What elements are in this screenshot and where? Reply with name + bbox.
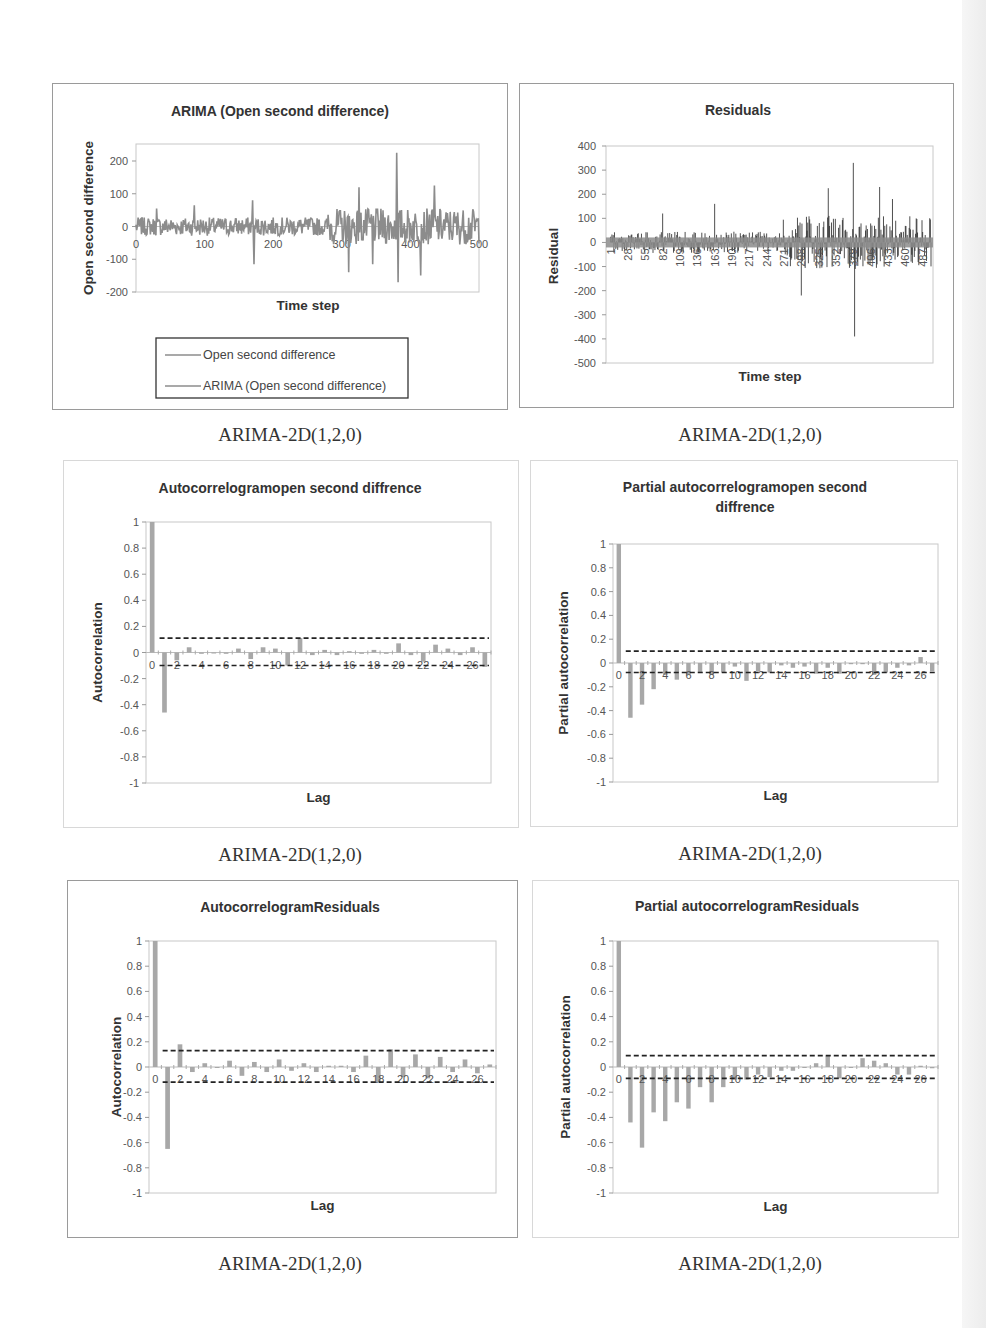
bar — [285, 653, 290, 666]
bar — [721, 1067, 725, 1087]
y-tick-label: 1 — [600, 935, 606, 947]
x-tick-label: 1 — [605, 248, 617, 254]
bar — [322, 650, 327, 653]
y-tick-label: -0.2 — [587, 1086, 606, 1098]
y-tick-label: -0.4 — [123, 1111, 142, 1123]
x-tick-label: 406 — [865, 248, 877, 266]
bar — [767, 1067, 771, 1077]
pacf-chart-residuals: Partial autocorrelogramResidualsPartial … — [533, 881, 960, 1239]
x-tick-label: 8 — [709, 669, 715, 681]
x-axis-label: Lag — [306, 790, 330, 805]
bar — [463, 1059, 468, 1067]
y-tick-label: -0.6 — [123, 1137, 142, 1149]
bar — [918, 1066, 922, 1067]
bar — [907, 663, 911, 665]
legend-entry: Open second difference — [203, 348, 336, 362]
x-tick-label: 26 — [471, 1073, 483, 1085]
chart-title: ARIMA (Open second difference) — [171, 103, 389, 119]
x-tick-label: 8 — [251, 1073, 257, 1085]
bar — [733, 663, 737, 667]
bar — [458, 653, 463, 656]
page-edge — [962, 0, 986, 1328]
bar — [150, 522, 155, 653]
bar — [826, 663, 830, 668]
x-tick-label: 28 — [622, 248, 634, 260]
bar — [227, 1061, 232, 1067]
x-tick-label: 26 — [914, 669, 926, 681]
bar — [450, 1067, 455, 1072]
bar — [384, 653, 389, 654]
bar — [930, 1067, 934, 1068]
x-tick-label: 244 — [761, 248, 773, 266]
y-tick-label: -0.4 — [587, 1111, 606, 1123]
y-tick-label: 0.4 — [591, 609, 606, 621]
x-tick-label: 136 — [691, 248, 703, 266]
x-tick-label: 22 — [868, 669, 880, 681]
bar — [236, 649, 241, 653]
y-tick-label: -1 — [132, 1187, 142, 1199]
x-tick-label: 10 — [269, 659, 281, 671]
x-tick-label: 22 — [422, 1073, 434, 1085]
caption-3: ARIMA-2D(1,2,0) — [140, 844, 440, 866]
bar — [388, 1049, 393, 1067]
x-tick-label: 200 — [264, 238, 282, 250]
x-axis-label: Lag — [763, 1199, 787, 1214]
bar — [791, 1067, 795, 1071]
bar — [289, 1067, 294, 1071]
y-tick-label: 0 — [600, 1061, 606, 1073]
y-tick-label: 1 — [133, 516, 139, 528]
bar — [628, 1067, 632, 1122]
y-tick-label: -0.6 — [587, 728, 606, 740]
x-tick-label: 14 — [775, 669, 787, 681]
x-tick-label: 325 — [813, 248, 825, 266]
y-tick-label: 0 — [122, 221, 128, 233]
y-tick-label: 0.8 — [124, 542, 139, 554]
bar — [860, 663, 864, 664]
y-axis-label: Open second difference — [81, 141, 96, 295]
bar — [409, 653, 414, 656]
bar — [721, 663, 725, 673]
bar — [298, 638, 303, 652]
x-tick-label: 352 — [830, 248, 842, 266]
bar — [698, 1067, 702, 1087]
bar — [364, 1056, 369, 1067]
y-tick-label: -0.8 — [587, 1162, 606, 1174]
x-tick-label: 12 — [298, 1073, 310, 1085]
bar — [884, 663, 888, 673]
bar — [675, 1067, 679, 1102]
bar — [767, 663, 771, 673]
x-tick-label: 24 — [442, 659, 454, 671]
acf-chart-open-second-difference: Autocorrelogramopen second diffrenceAuto… — [64, 461, 520, 829]
y-tick-label: 100 — [578, 212, 596, 224]
bar — [779, 663, 783, 665]
x-tick-label: 14 — [319, 659, 331, 671]
x-tick-label: 109 — [674, 248, 686, 266]
chart-title: Partial autocorrelogramopen second — [623, 479, 867, 495]
bar — [199, 653, 204, 654]
bar — [211, 653, 216, 654]
x-tick-label: 433 — [882, 248, 894, 266]
x-tick-label: 163 — [709, 248, 721, 266]
y-tick-label: 0 — [133, 647, 139, 659]
y-tick-label: -1 — [596, 1187, 606, 1199]
bar — [264, 1067, 269, 1072]
bar — [273, 649, 278, 653]
x-tick-label: 6 — [223, 659, 229, 671]
y-tick-label: 0.6 — [127, 985, 142, 997]
bar — [791, 663, 795, 668]
bar — [178, 1044, 183, 1067]
y-tick-label: 400 — [578, 140, 596, 152]
y-axis-label: Autocorrelation — [90, 602, 105, 703]
y-tick-label: 0.4 — [124, 594, 139, 606]
bar — [372, 650, 377, 653]
bar — [482, 653, 487, 667]
bar — [347, 651, 352, 652]
chart-title: diffrence — [715, 499, 774, 515]
chart-title: Partial autocorrelogramResiduals — [635, 898, 859, 914]
x-tick-label: 0 — [616, 669, 622, 681]
y-tick-label: 0.8 — [591, 960, 606, 972]
caption-6: ARIMA-2D(1,2,0) — [600, 1253, 900, 1275]
x-tick-label: 20 — [397, 1073, 409, 1085]
x-tick-label: 4 — [198, 659, 204, 671]
x-tick-label: 0 — [133, 238, 139, 250]
